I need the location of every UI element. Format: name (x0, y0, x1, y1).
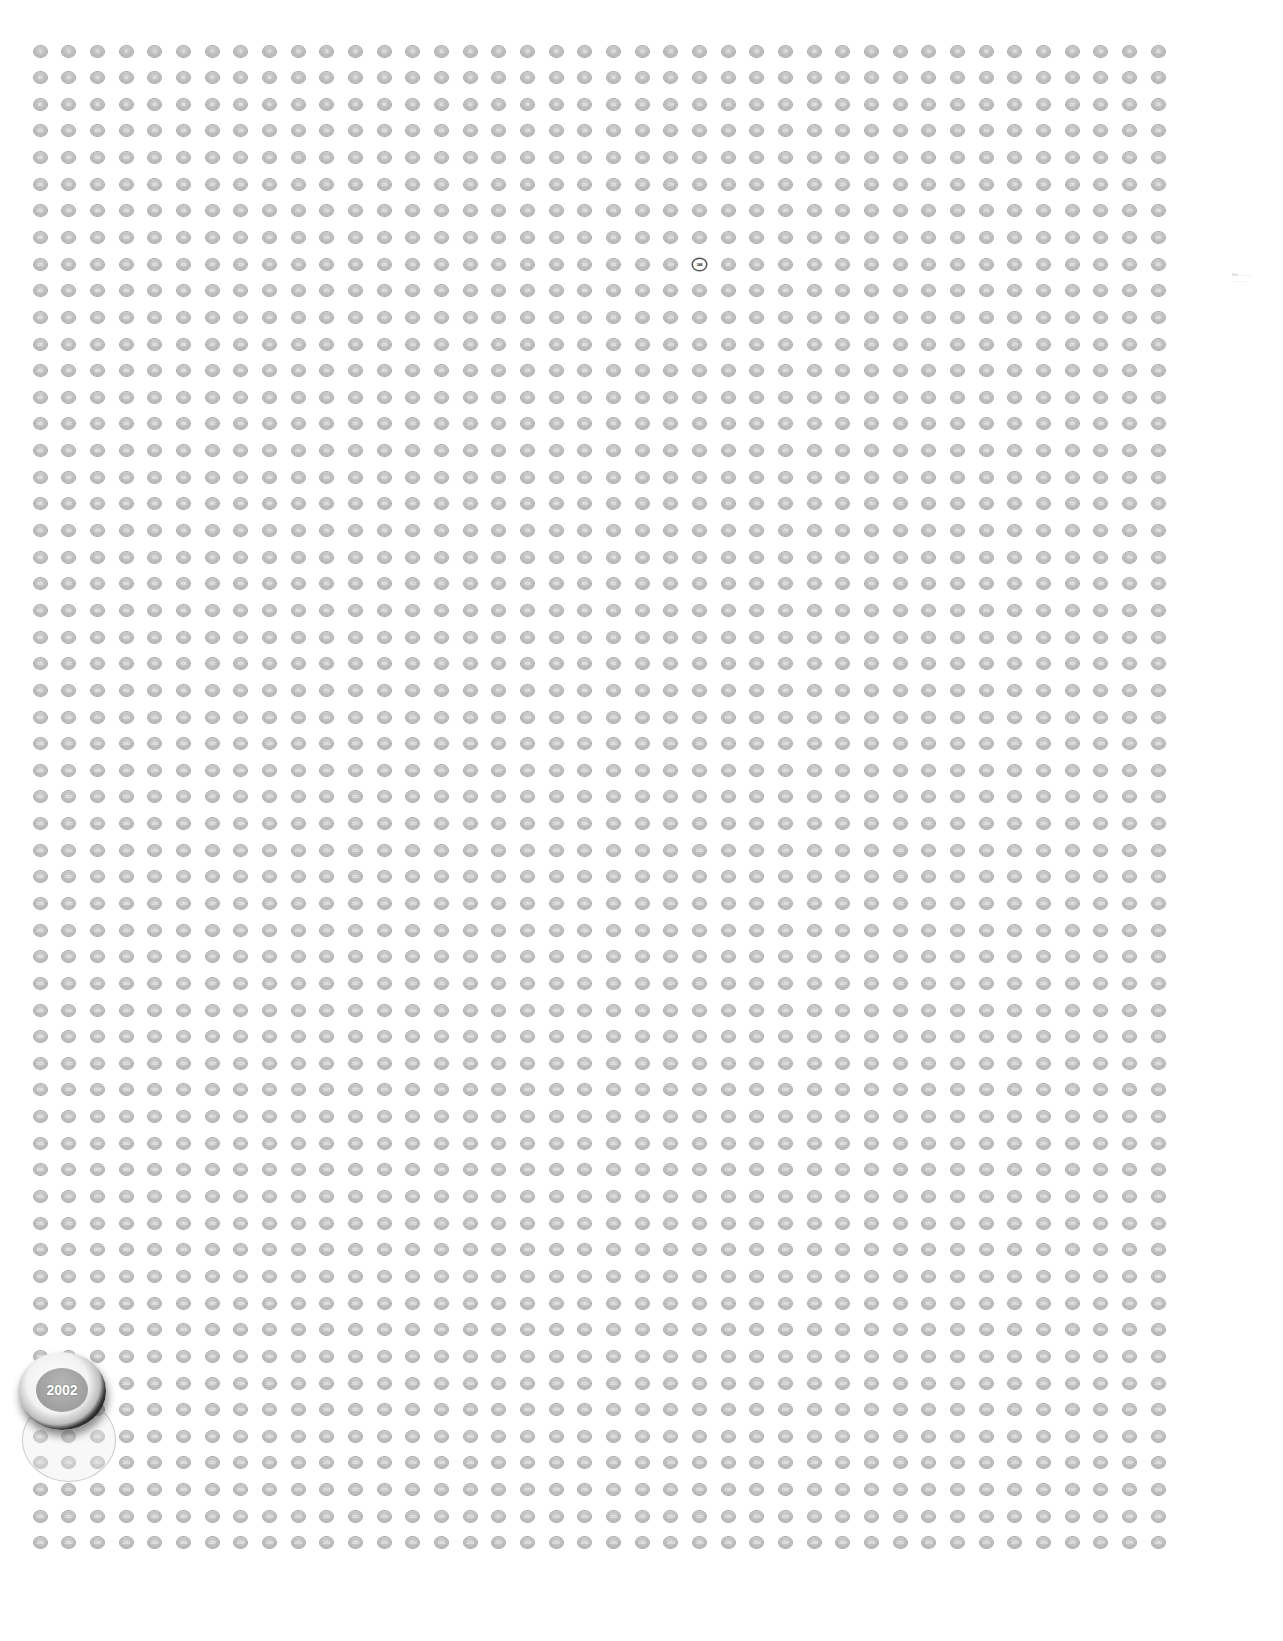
numbered-dot[interactable]: 1164 (120, 818, 133, 829)
numbered-dot[interactable]: 1519 (1123, 1031, 1136, 1042)
numbered-dot[interactable]: 1470 (865, 1005, 878, 1016)
numbered-dot[interactable]: 1927 (206, 1324, 219, 1335)
numbered-dot[interactable]: 1194 (980, 818, 993, 829)
numbered-dot[interactable]: 1577 (492, 1084, 505, 1095)
numbered-dot[interactable]: 1648 (234, 1138, 247, 1149)
numbered-dot[interactable]: 18 (521, 46, 534, 57)
numbered-dot[interactable]: 313 (951, 232, 964, 243)
numbered-dot[interactable]: 1917 (1066, 1298, 1079, 1309)
numbered-dot[interactable]: 1037 (1066, 712, 1079, 723)
numbered-dot[interactable]: 1386 (750, 951, 763, 962)
numbered-dot[interactable]: 1315 (1008, 898, 1021, 909)
numbered-dot[interactable]: 1670 (865, 1138, 878, 1149)
numbered-dot[interactable]: 478 (1094, 339, 1107, 350)
numbered-dot[interactable]: 710 (865, 498, 878, 509)
numbered-dot[interactable]: 2019 (550, 1378, 563, 1389)
numbered-dot[interactable]: 1165 (148, 818, 161, 829)
numbered-dot[interactable]: 1819 (550, 1244, 563, 1255)
numbered-dot[interactable]: 923 (91, 658, 104, 669)
numbered-dot[interactable]: 772 (349, 552, 362, 563)
numbered-dot[interactable]: 1749 (836, 1191, 849, 1202)
numbered-dot[interactable]: 921 (34, 658, 47, 669)
numbered-dot[interactable]: 60 (578, 72, 591, 83)
numbered-dot[interactable]: 1693 (378, 1164, 391, 1175)
numbered-dot[interactable]: 939 (550, 658, 563, 669)
numbered-dot[interactable]: 2259 (550, 1537, 563, 1548)
numbered-dot[interactable]: 1167 (206, 818, 219, 829)
numbered-dot[interactable]: 1231 (894, 845, 907, 856)
numbered-dot[interactable]: 1511 (894, 1031, 907, 1042)
numbered-dot[interactable]: 461 (607, 339, 620, 350)
numbered-dot[interactable]: 1847 (206, 1271, 219, 1282)
numbered-dot[interactable]: 82 (62, 99, 75, 110)
numbered-dot[interactable]: 1192 (922, 818, 935, 829)
numbered-dot[interactable]: 719 (1123, 498, 1136, 509)
numbered-dot[interactable]: 314 (980, 232, 993, 243)
numbered-dot[interactable]: 383 (664, 285, 677, 296)
numbered-dot[interactable]: 241 (34, 205, 47, 216)
numbered-dot[interactable]: 825 (722, 578, 735, 589)
numbered-dot[interactable]: 258 (521, 205, 534, 216)
numbered-dot[interactable]: 371 (320, 285, 333, 296)
numbered-dot[interactable]: 532 (349, 392, 362, 403)
numbered-dot[interactable]: 412 (349, 312, 362, 323)
numbered-dot[interactable]: 1671 (894, 1138, 907, 1149)
numbered-dot[interactable]: 1777 (492, 1218, 505, 1229)
numbered-dot[interactable]: 1775 (435, 1218, 448, 1229)
numbered-dot[interactable]: 1458 (521, 1005, 534, 1016)
numbered-dot[interactable]: 1407 (206, 978, 219, 989)
numbered-dot[interactable]: 1307 (779, 898, 792, 909)
numbered-dot[interactable]: 1702 (636, 1164, 649, 1175)
numbered-dot[interactable]: 667 (779, 472, 792, 483)
numbered-dot[interactable]: 1155 (1008, 791, 1021, 802)
numbered-dot[interactable]: 1097 (492, 765, 505, 776)
numbered-dot[interactable]: 868 (808, 605, 821, 616)
numbered-dot[interactable]: 2007 (206, 1378, 219, 1389)
numbered-dot[interactable]: 1766 (177, 1218, 190, 1229)
numbered-dot[interactable]: 788 (808, 552, 821, 563)
numbered-dot[interactable]: 956 (1037, 658, 1050, 669)
numbered-dot[interactable]: 1718 (1094, 1164, 1107, 1175)
numbered-dot[interactable]: 5 (148, 46, 161, 57)
numbered-dot[interactable]: 1001 (34, 712, 47, 723)
numbered-dot[interactable]: 197 (1066, 152, 1079, 163)
numbered-dot[interactable]: 1911 (894, 1298, 907, 1309)
numbered-dot[interactable]: 2170 (292, 1484, 305, 1495)
numbered-dot[interactable]: 350 (865, 259, 878, 270)
numbered-dot[interactable]: 231 (894, 179, 907, 190)
numbered-dot[interactable]: 1690 (292, 1164, 305, 1175)
numbered-dot[interactable]: 239 (1123, 179, 1136, 190)
numbered-dot[interactable]: 546 (750, 392, 763, 403)
numbered-dot[interactable]: 236 (1037, 179, 1050, 190)
numbered-dot[interactable]: 2244 (120, 1537, 133, 1548)
numbered-dot[interactable]: 932 (349, 658, 362, 669)
numbered-dot[interactable]: 368 (234, 285, 247, 296)
numbered-dot[interactable]: 577 (492, 418, 505, 429)
numbered-dot[interactable]: 1175 (435, 818, 448, 829)
numbered-dot[interactable]: 1172 (349, 818, 362, 829)
numbered-dot[interactable]: 1158 (1094, 791, 1107, 802)
numbered-dot[interactable]: 1771 (320, 1218, 333, 1229)
numbered-dot[interactable]: 1 (34, 46, 47, 57)
numbered-dot[interactable]: 1804 (120, 1244, 133, 1255)
numbered-dot[interactable]: 280 (1152, 205, 1165, 216)
numbered-dot[interactable]: 1343 (664, 925, 677, 936)
numbered-dot[interactable]: 1656 (464, 1138, 477, 1149)
numbered-dot[interactable]: 434 (980, 312, 993, 323)
numbered-dot[interactable]: 1348 (808, 925, 821, 936)
numbered-dot[interactable]: 352 (922, 259, 935, 270)
numbered-dot[interactable]: 312 (922, 232, 935, 243)
numbered-dot[interactable]: 1810 (292, 1244, 305, 1255)
numbered-dot[interactable]: 837 (1066, 578, 1079, 589)
numbered-dot[interactable]: 2262 (636, 1537, 649, 1548)
numbered-dot[interactable]: 787 (779, 552, 792, 563)
numbered-dot[interactable]: 481 (34, 365, 47, 376)
numbered-dot[interactable]: 1860 (578, 1271, 591, 1282)
numbered-dot[interactable]: 1684 (120, 1164, 133, 1175)
numbered-dot[interactable]: 2045 (148, 1404, 161, 1415)
numbered-dot[interactable]: 10 (292, 46, 305, 57)
numbered-dot[interactable]: 2147 (779, 1457, 792, 1468)
numbered-dot[interactable]: 1134 (406, 791, 419, 802)
numbered-dot[interactable]: 1268 (808, 871, 821, 882)
numbered-dot[interactable]: 580 (578, 418, 591, 429)
